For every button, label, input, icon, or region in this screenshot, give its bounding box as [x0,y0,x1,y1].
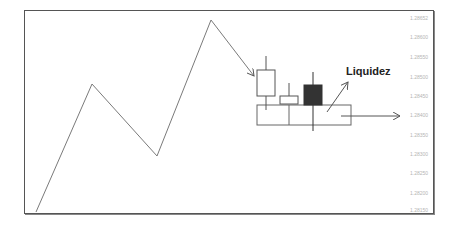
candle-1 [257,56,275,110]
y-tick-label: 1.28300 [410,151,434,157]
candle-2 [280,83,298,104]
y-tick-label: 1.28350 [410,132,434,138]
chart-plot [0,0,456,227]
y-tick-label: 1.28200 [410,190,434,196]
y-tick-label: 1.28600 [410,34,434,40]
y-tick-label: 1.28652 [410,15,434,21]
consolidation-box [257,105,351,125]
y-tick-label: 1.28550 [410,54,434,60]
price-path-line [36,20,254,212]
y-tick-label: 1.28400 [410,112,434,118]
y-tick-label: 1.28150 [410,207,434,213]
y-tick-label: 1.28450 [410,93,434,99]
y-tick-label: 1.28250 [410,170,434,176]
y-tick-label: 1.28500 [410,74,434,80]
liquidez-label: Liquidez [346,65,391,77]
